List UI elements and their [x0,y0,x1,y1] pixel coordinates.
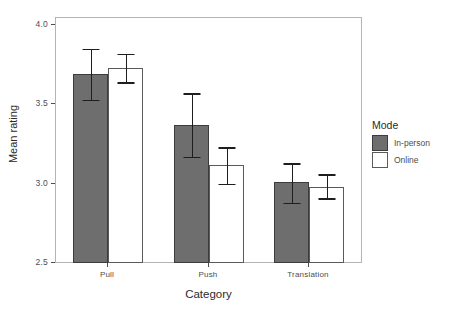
y-tick-label: 4.0 [20,19,48,29]
y-axis-title: Mean rating [7,59,19,209]
legend-title: Mode [372,119,448,131]
x-tick-label: Translation [287,270,328,279]
error-bar-cap-upper [318,174,335,176]
error-bar-line [292,163,293,203]
error-bar-line [126,54,127,83]
error-bar-cap-lower [183,157,200,159]
legend-item-online[interactable]: Online [372,151,448,168]
bar-pull-in-person [73,74,108,263]
plot-panel [55,17,362,263]
error-bar-cap-lower [218,184,235,186]
x-tick-label: Push [198,270,217,279]
legend: Mode In-person Online [372,119,448,168]
bar-pull-online [108,68,143,263]
error-bar-cap-upper [218,147,235,149]
y-tick-label: 3.5 [20,98,48,108]
x-tick-mark [308,263,309,267]
y-tick-label: 2.5 [20,257,48,267]
y-axis-title-container: Mean rating [0,0,20,280]
x-tick-label: Pull [100,270,114,279]
y-tick-label: 3.0 [20,178,48,188]
x-tick-mark [107,263,108,267]
error-bar-cap-lower [318,198,335,200]
error-bar-cap-upper [283,163,300,165]
error-bar-line [327,174,328,198]
error-bar-cap-upper [183,93,200,95]
legend-label-in-person: In-person [394,138,430,148]
chart-figure: Mean rating 2.53.03.54.0 PullPushTransla… [0,0,454,310]
legend-item-in-person[interactable]: In-person [372,134,448,151]
legend-swatch-online [372,152,388,168]
error-bar-cap-upper [82,49,99,51]
legend-label-online: Online [394,155,419,165]
error-bar-cap-lower [82,100,99,102]
plot-area [56,18,361,262]
error-bar-cap-upper [117,54,134,56]
x-axis-title: Category [55,288,362,300]
error-bar-cap-lower [283,203,300,205]
error-bar-line [227,147,228,183]
error-bar-line [192,93,193,156]
error-bar-line [91,49,92,100]
legend-swatch-in-person [372,135,388,151]
x-tick-mark [208,263,209,267]
error-bar-cap-lower [117,82,134,84]
